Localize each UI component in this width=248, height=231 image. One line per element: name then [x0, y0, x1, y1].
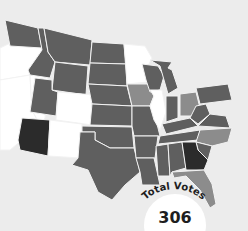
state-wyoming[interactable] — [52, 62, 88, 95]
state-nebraska[interactable] — [88, 84, 132, 106]
total-votes-value: 306 — [144, 208, 206, 227]
state-pennsylvania[interactable] — [196, 84, 232, 104]
state-north-dakota[interactable] — [90, 42, 126, 64]
state-indiana[interactable] — [166, 96, 178, 122]
state-washington[interactable] — [5, 20, 42, 48]
state-arizona[interactable] — [18, 118, 50, 156]
state-kansas[interactable] — [90, 104, 132, 126]
state-new-mexico[interactable] — [48, 120, 82, 158]
total-votes-badge: Total Votes 306 — [124, 168, 224, 231]
state-south-dakota[interactable] — [88, 63, 127, 86]
state-colorado[interactable] — [56, 92, 95, 125]
state-arkansas[interactable] — [134, 136, 158, 158]
